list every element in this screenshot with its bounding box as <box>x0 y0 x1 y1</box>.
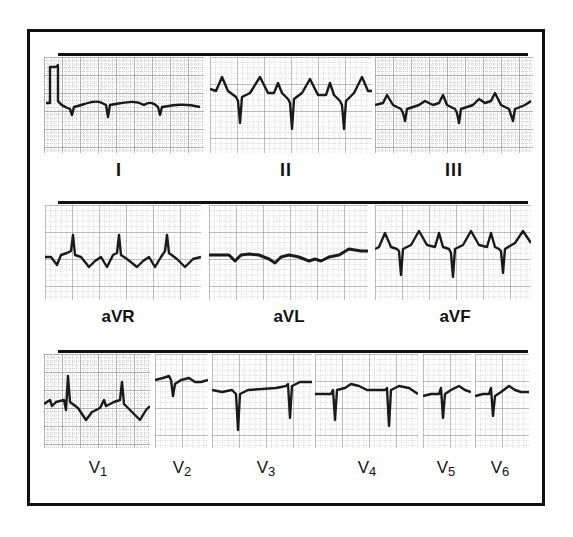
lead-label-V4: V4 <box>358 458 377 478</box>
lead-label-aVL: aVL <box>273 307 304 327</box>
lead-III-strip <box>375 57 533 153</box>
lead-label-aVR: aVR <box>101 307 134 327</box>
row2-top-line <box>58 201 528 204</box>
ecg-trace-lead-V3 <box>212 354 312 448</box>
row1-top-line <box>58 53 528 56</box>
ecg-trace-lead-V4 <box>315 354 418 448</box>
ecg-trace-lead-V6 <box>475 354 529 448</box>
lead-label-II: II <box>280 160 292 181</box>
lead-V6-strip <box>475 354 529 448</box>
lead-V5-strip <box>423 354 471 448</box>
lead-I-strip <box>44 57 204 153</box>
lead-aVL-strip <box>209 205 368 300</box>
lead-label-V5: V5 <box>437 458 456 478</box>
lead-aVR-strip <box>45 205 201 300</box>
row3-top-line <box>58 350 528 353</box>
ecg-trace-lead-V5 <box>423 354 471 448</box>
lead-aVF-strip <box>375 205 531 300</box>
ecg-trace-lead-aVF <box>375 205 531 300</box>
lead-II-strip <box>210 57 372 153</box>
lead-label-V6: V6 <box>491 458 510 478</box>
ecg-trace-lead-III <box>375 57 533 153</box>
lead-V4-strip <box>315 354 418 448</box>
ecg-trace-lead-aVL <box>209 205 368 300</box>
ecg-trace-lead-II <box>210 57 372 153</box>
lead-label-III: III <box>445 160 463 181</box>
ecg-trace-lead-V1 <box>44 354 150 448</box>
lead-V3-strip <box>212 354 312 448</box>
lead-label-I: I <box>116 160 122 181</box>
lead-label-V2: V2 <box>173 458 192 478</box>
ecg-trace-lead-I <box>44 57 204 153</box>
ecg-trace-lead-aVR <box>45 205 201 300</box>
lead-label-aVF: aVF <box>439 307 470 327</box>
lead-V1-strip <box>44 354 150 448</box>
lead-V2-strip <box>155 354 208 448</box>
ecg-trace-lead-V2 <box>155 354 208 448</box>
lead-label-V1: V1 <box>89 458 108 478</box>
lead-label-V3: V3 <box>257 458 276 478</box>
